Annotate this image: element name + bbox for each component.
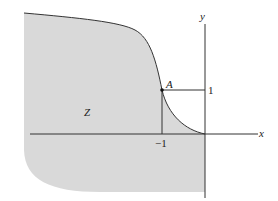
region-z [24, 13, 205, 192]
y-axis-label: y [199, 10, 205, 22]
x-axis-label: x [258, 127, 264, 139]
point-a-label: A [165, 78, 173, 90]
y-tick-label: 1 [208, 84, 214, 96]
diagram-canvas: A Z x y 1 −1 [0, 0, 278, 201]
point-a [160, 88, 164, 92]
x-tick-label: −1 [155, 137, 167, 149]
region-z-label: Z [84, 106, 91, 118]
